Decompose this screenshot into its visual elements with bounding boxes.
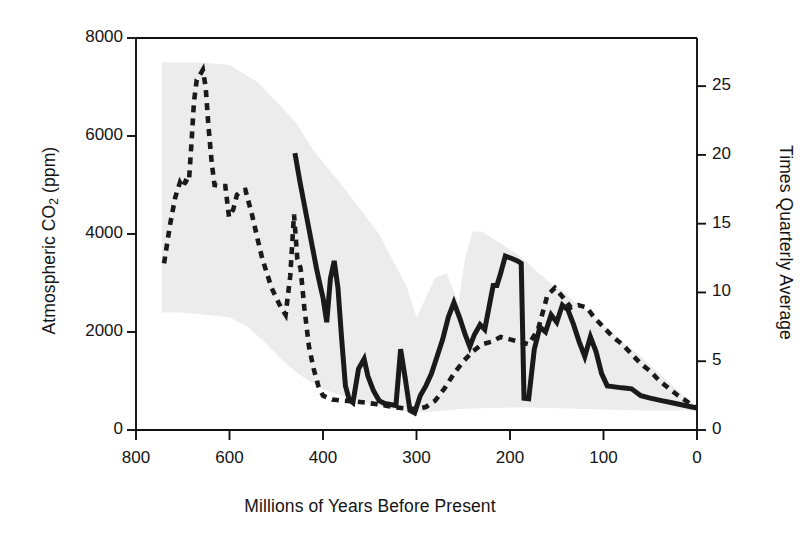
x-tick-label: 200 [474, 448, 546, 468]
x-tick-label: 0 [661, 448, 733, 468]
y-tick-label-right: 20 [712, 144, 772, 164]
x-tick-label: 300 [381, 448, 453, 468]
y-tick-label-left: 8000 [51, 27, 123, 47]
uncertainty-band-area [162, 63, 697, 413]
y-tick-label-right: 5 [712, 350, 772, 370]
y-axis-left-title-suffix: (ppm) [39, 147, 59, 198]
y-axis-left-title-subscript: 2 [47, 198, 61, 205]
chart-figure: Millions of Years Before Present Atmosph… [0, 0, 810, 551]
x-tick-label: 600 [194, 448, 266, 468]
x-tick-label: 800 [100, 448, 172, 468]
y-tick-label-left: 2000 [51, 321, 123, 341]
y-tick-label-right: 25 [712, 75, 772, 95]
y-axis-right-title: Times Quarterly Average [775, 93, 796, 393]
y-tick-label-left: 6000 [51, 125, 123, 145]
x-tick-label: 100 [568, 448, 640, 468]
x-axis-title: Millions of Years Before Present [0, 496, 740, 517]
y-tick-label-left: 4000 [51, 223, 123, 243]
uncertainty-band [162, 63, 697, 413]
y-tick-label-right: 0 [712, 419, 772, 439]
co2-history-chart [0, 0, 810, 551]
y-tick-label-right: 15 [712, 213, 772, 233]
x-tick-label: 400 [287, 448, 359, 468]
y-tick-label-left: 0 [51, 419, 123, 439]
y-tick-label-right: 10 [712, 281, 772, 301]
